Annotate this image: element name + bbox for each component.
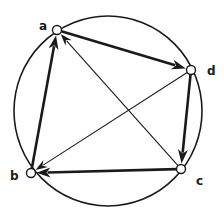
arrowhead-icon — [36, 160, 48, 170]
node-c — [177, 165, 186, 174]
edge-b-to-a — [32, 35, 59, 168]
edge-line — [47, 169, 176, 172]
node-b — [27, 169, 36, 178]
edge-c-to-b — [36, 167, 176, 177]
nodes — [27, 26, 196, 178]
node-d — [187, 66, 196, 75]
edge-line — [67, 41, 178, 166]
edges — [32, 31, 191, 177]
edge-d-to-c — [178, 74, 191, 163]
edge-d-to-b — [36, 72, 188, 170]
edge-line — [32, 46, 54, 168]
edge-line — [61, 31, 175, 65]
node-a — [53, 26, 62, 35]
node-label-a: a — [39, 20, 47, 32]
edge-line — [183, 74, 191, 152]
node-label-c: c — [196, 175, 203, 187]
directed-graph-diagram — [0, 0, 224, 215]
edge-c-to-a — [61, 34, 178, 166]
node-label-d: d — [207, 65, 216, 77]
node-label-b: b — [10, 170, 19, 182]
